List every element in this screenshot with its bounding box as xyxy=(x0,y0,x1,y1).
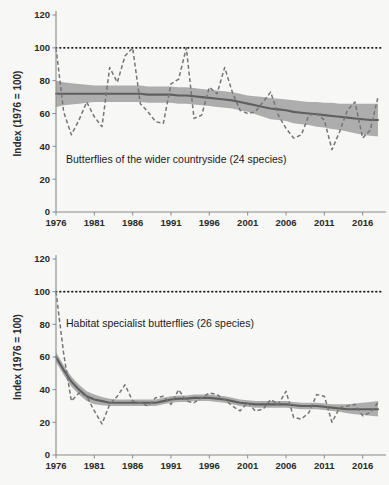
series-annotation-label: Habitat specialist butterflies (26 speci… xyxy=(66,317,254,329)
series-annotation-label: Butterflies of the wider countryside (24… xyxy=(66,153,287,165)
y-tick-label: 100 xyxy=(34,42,50,53)
x-tick-label: 2011 xyxy=(314,460,335,471)
y-tick-label: 20 xyxy=(39,417,50,428)
butterfly-index-figure: 0204060801001201976198119861991199620012… xyxy=(0,0,389,485)
x-tick-label: 1991 xyxy=(160,217,182,228)
y-tick-label: 40 xyxy=(39,384,50,395)
x-tick-label: 2011 xyxy=(314,217,335,228)
y-axis-title: Index (1976 = 100) xyxy=(12,314,23,400)
chart-svg-habitat-specialists: 0204060801001201976198119861991199620012… xyxy=(0,243,389,485)
y-tick-label: 60 xyxy=(39,351,50,362)
y-axis-title: Index (1976 = 100) xyxy=(12,71,23,157)
y-tick-label: 0 xyxy=(45,206,50,217)
x-tick-label: 1981 xyxy=(84,460,106,471)
y-tick-label: 20 xyxy=(39,174,50,185)
y-tick-label: 80 xyxy=(39,75,50,86)
x-tick-label: 1996 xyxy=(199,460,220,471)
y-tick-label: 80 xyxy=(39,319,50,330)
x-tick-label: 1981 xyxy=(84,217,106,228)
x-tick-label: 2001 xyxy=(237,460,259,471)
y-tick-label: 120 xyxy=(34,253,50,264)
y-tick-label: 100 xyxy=(34,286,50,297)
x-tick-label: 1986 xyxy=(122,460,143,471)
chart-panel-wider-countryside: 0204060801001201976198119861991199620012… xyxy=(0,0,389,243)
x-tick-label: 2001 xyxy=(237,217,259,228)
x-tick-label: 2016 xyxy=(352,460,373,471)
x-tick-label: 1986 xyxy=(122,217,143,228)
x-tick-label: 2016 xyxy=(352,217,373,228)
chart-panel-habitat-specialists: 0204060801001201976198119861991199620012… xyxy=(0,243,389,485)
x-tick-label: 1976 xyxy=(45,217,66,228)
x-tick-label: 2006 xyxy=(275,460,296,471)
x-tick-label: 1976 xyxy=(45,460,66,471)
y-tick-label: 40 xyxy=(39,141,50,152)
x-tick-label: 1991 xyxy=(160,460,182,471)
y-tick-label: 60 xyxy=(39,108,50,119)
y-tick-label: 0 xyxy=(45,449,50,460)
x-tick-label: 1996 xyxy=(199,217,220,228)
x-tick-label: 2006 xyxy=(275,217,296,228)
chart-svg-wider-countryside: 0204060801001201976198119861991199620012… xyxy=(0,0,389,243)
y-tick-label: 120 xyxy=(34,9,50,20)
